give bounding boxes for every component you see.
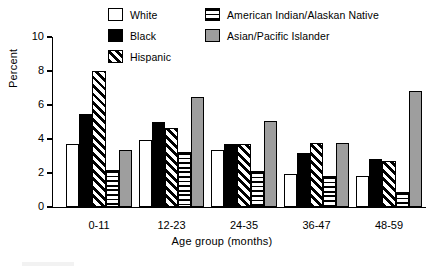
y-axis-tick-mark bbox=[47, 206, 52, 207]
bar bbox=[211, 150, 224, 207]
bar bbox=[369, 159, 382, 207]
y-axis-tick-label: 0 bbox=[14, 201, 44, 212]
bar bbox=[356, 176, 369, 207]
bar bbox=[66, 144, 79, 207]
legend-label-american-indian: American Indian/Alaskan Native bbox=[227, 9, 379, 21]
y-axis-tick-label: 2 bbox=[14, 167, 44, 178]
page-artifact bbox=[22, 262, 74, 266]
bar-group bbox=[139, 37, 205, 207]
x-axis-tick-label: 24-35 bbox=[204, 219, 284, 231]
bar-group bbox=[66, 37, 132, 207]
x-axis-line bbox=[52, 207, 426, 208]
plot-area: 0246810 0-1112-2324-3536-4748-59 bbox=[52, 37, 426, 207]
y-axis-tick-mark bbox=[47, 36, 52, 37]
bar bbox=[396, 192, 409, 207]
bar bbox=[409, 91, 422, 207]
bar bbox=[310, 143, 323, 207]
y-axis-tick-label: 10 bbox=[14, 31, 44, 42]
bar-chart-figure: White Black Hispanic American Indian/Ala… bbox=[0, 0, 444, 271]
y-axis-tick-label: 4 bbox=[14, 133, 44, 144]
x-axis-tick-label: 12-23 bbox=[132, 219, 212, 231]
bar bbox=[382, 161, 395, 207]
x-axis-title: Age group (months) bbox=[0, 235, 444, 247]
bar bbox=[152, 122, 165, 207]
bar bbox=[106, 170, 119, 207]
bar-group bbox=[356, 37, 422, 207]
bar-group bbox=[284, 37, 350, 207]
bar bbox=[237, 144, 250, 207]
x-axis-tick-label: 48-59 bbox=[349, 219, 429, 231]
y-axis-tick-mark bbox=[47, 172, 52, 173]
bar bbox=[323, 176, 336, 207]
legend-item-american-indian: American Indian/Alaskan Native bbox=[205, 8, 379, 21]
bar bbox=[336, 143, 349, 207]
bar bbox=[92, 71, 105, 207]
bar bbox=[79, 114, 92, 208]
bar bbox=[119, 150, 132, 207]
y-axis-tick-label: 8 bbox=[14, 65, 44, 76]
bar bbox=[139, 140, 152, 207]
y-axis-line bbox=[52, 37, 53, 207]
y-axis-tick-label: 6 bbox=[14, 99, 44, 110]
bar bbox=[251, 171, 264, 207]
bar bbox=[264, 121, 277, 207]
bar bbox=[191, 97, 204, 208]
legend-item-white: White bbox=[108, 8, 157, 21]
y-axis-tick-mark bbox=[47, 138, 52, 139]
legend-swatch-white-icon bbox=[108, 8, 123, 21]
bar bbox=[297, 153, 310, 207]
y-axis-tick-mark bbox=[47, 70, 52, 71]
y-axis-tick-mark bbox=[47, 104, 52, 105]
bar bbox=[224, 144, 237, 207]
x-axis-tick-label: 36-47 bbox=[277, 219, 357, 231]
bar-group bbox=[211, 37, 277, 207]
bar bbox=[165, 128, 178, 207]
legend-swatch-american-indian-icon bbox=[205, 8, 220, 21]
bar bbox=[284, 174, 297, 207]
legend-label-white: White bbox=[130, 9, 157, 21]
bar bbox=[178, 152, 191, 207]
x-axis-tick-label: 0-11 bbox=[59, 219, 139, 231]
